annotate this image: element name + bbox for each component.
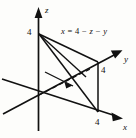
x-axis-label: x: [123, 123, 127, 132]
equation-minus-2: −: [96, 26, 101, 36]
x-intercept-label: 4: [95, 118, 100, 127]
z-intercept-label: 4: [27, 28, 32, 37]
triangle-interior-line: [39, 34, 86, 77]
plane-equation-label: x = 4 − z − y: [61, 27, 107, 36]
equation-constant: 4: [75, 26, 80, 36]
equation-lhs: x: [61, 26, 65, 36]
x-axis: [2, 79, 123, 121]
y-axis: [3, 50, 123, 114]
z-axis-label: z: [45, 6, 49, 15]
equation-term-2: y: [103, 26, 107, 36]
y-axis-arrowhead: [111, 50, 123, 58]
coordinate-axes-drawing: [0, 0, 136, 138]
z-axis: [35, 7, 43, 131]
z-axis-arrowhead: [35, 7, 43, 18]
triangle-edge-z-to-y: [39, 34, 98, 62]
plane-diagram-figure: z y x 4 4 4 x = 4 − z − y: [0, 0, 136, 138]
y-intercept-label: 4: [101, 66, 106, 75]
equation-minus-1: −: [82, 26, 87, 36]
equation-equals: =: [68, 26, 73, 36]
equation-term-1: z: [90, 26, 94, 36]
y-axis-label: y: [124, 55, 128, 64]
x-axis-arrowhead: [112, 113, 124, 122]
